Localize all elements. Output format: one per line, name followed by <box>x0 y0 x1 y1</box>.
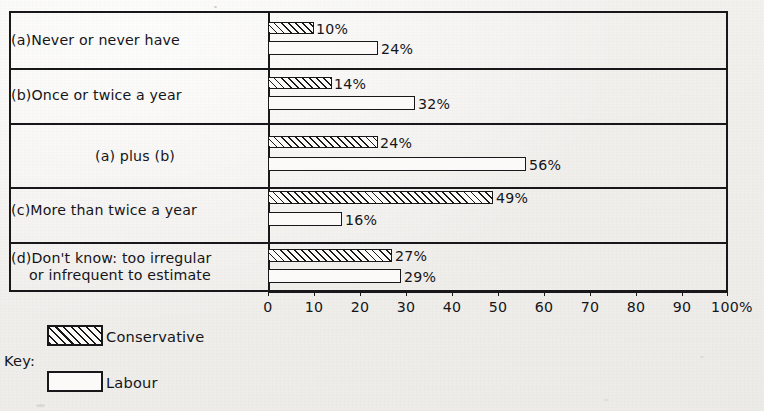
x-tick-60 <box>544 291 545 296</box>
x-tick-20 <box>360 291 361 296</box>
bar-labour-a <box>268 41 378 55</box>
category-label-a-plus-b-text: (a) plus (b) <box>95 148 175 164</box>
x-tick-label-10: 10 <box>305 300 324 314</box>
x-tick-40 <box>452 291 453 296</box>
legend-key-label: Key: <box>4 352 35 369</box>
bar-labour-d <box>268 269 401 283</box>
bar-value-conservative-c: 49% <box>496 191 528 205</box>
category-label-d-line2: or infrequent to estimate <box>11 267 259 284</box>
x-tick-70 <box>590 291 591 296</box>
bar-conservative-a <box>268 22 314 34</box>
x-tick-100 <box>727 291 728 296</box>
legend-label-labour: Labour <box>106 376 158 391</box>
category-label-a-text: (a)Never or never have <box>11 32 180 48</box>
x-tick-label-20: 20 <box>351 300 370 314</box>
x-tick-label-30: 30 <box>397 300 416 314</box>
bar-value-labour-d: 29% <box>404 270 436 284</box>
x-tick-label-90: 90 <box>673 300 692 314</box>
x-tick-label-0: 0 <box>263 300 272 314</box>
x-tick-30 <box>406 291 407 296</box>
x-tick-label-80: 80 <box>627 300 646 314</box>
x-tick-10 <box>314 291 315 296</box>
bar-value-conservative-d: 27% <box>395 249 427 263</box>
x-tick-label-50: 50 <box>489 300 508 314</box>
x-tick-80 <box>636 291 637 296</box>
category-label-b: (b)Once or twice a year <box>11 87 259 104</box>
x-tick-50 <box>498 291 499 296</box>
category-label-c: (c)More than twice a year <box>11 202 259 219</box>
x-tick-label-40: 40 <box>443 300 462 314</box>
category-label-a: (a)Never or never have <box>11 32 259 49</box>
category-label-d: (d)Don't know: too irregular or infreque… <box>11 250 259 285</box>
x-tick-0 <box>268 291 269 296</box>
category-label-c-text: (c)More than twice a year <box>11 202 197 218</box>
bar-conservative-c <box>268 191 493 204</box>
bar-conservative-d <box>268 249 392 262</box>
legend-swatch-labour <box>47 371 103 392</box>
row-separator-1 <box>11 68 726 70</box>
horizontal-bar-chart: (a)Never or never have (b)Once or twice … <box>0 0 764 411</box>
x-tick-90 <box>682 291 683 296</box>
legend-swatch-conservative <box>47 325 103 346</box>
row-separator-4 <box>11 242 726 244</box>
bar-labour-b <box>268 96 415 110</box>
row-separator-3 <box>11 187 726 189</box>
legend-label-conservative: Conservative <box>106 330 204 345</box>
bar-labour-c <box>268 212 342 226</box>
row-separator-2 <box>11 123 726 125</box>
bar-labour-a-plus-b <box>268 157 526 171</box>
bar-conservative-a-plus-b <box>268 136 378 148</box>
bar-value-conservative-b: 14% <box>334 77 366 91</box>
x-tick-label-100: 100% <box>711 300 753 314</box>
category-label-b-text: (b)Once or twice a year <box>11 87 182 103</box>
x-tick-label-60: 60 <box>535 300 554 314</box>
bar-value-conservative-a-plus-b: 24% <box>380 136 412 150</box>
bar-value-conservative-a: 10% <box>316 22 348 36</box>
bar-value-labour-c: 16% <box>345 213 377 227</box>
bar-value-labour-b: 32% <box>418 97 450 111</box>
bar-value-labour-a: 24% <box>381 42 413 56</box>
x-tick-label-70: 70 <box>581 300 600 314</box>
bar-value-labour-a-plus-b: 56% <box>529 158 561 172</box>
category-label-a-plus-b: (a) plus (b) <box>11 148 259 165</box>
bar-conservative-b <box>268 77 332 89</box>
category-label-d-line1: (d)Don't know: too irregular <box>11 250 212 266</box>
